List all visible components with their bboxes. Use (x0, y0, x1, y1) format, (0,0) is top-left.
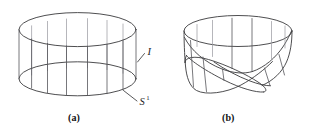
circle-leader-line (124, 91, 138, 102)
caption-b: (b) (222, 112, 235, 123)
interval-leader-line (138, 54, 145, 63)
cylinder-front-rulings (19, 30, 136, 96)
topology-figure: I S 1 (0, 0, 313, 136)
interval-label: I (147, 46, 152, 57)
moebius-inner-fold-left (185, 38, 253, 74)
cylinder-top-rim (19, 13, 136, 47)
circle-base-superscript: 1 (146, 94, 149, 101)
cylinder-bottom-rim (19, 62, 136, 96)
moebius-bottom-rim-upper (185, 57, 266, 92)
moebius-bottom-rulings (191, 41, 285, 92)
moebius-top-rim (184, 16, 292, 47)
circle-base-label: S (140, 96, 146, 107)
moebius-cross-fold (214, 62, 271, 86)
cylinder-figure: I S 1 (19, 13, 152, 107)
caption-a: (a) (68, 112, 80, 123)
figure-canvas: I S 1 (0, 0, 313, 136)
moebius-figure (184, 16, 292, 94)
